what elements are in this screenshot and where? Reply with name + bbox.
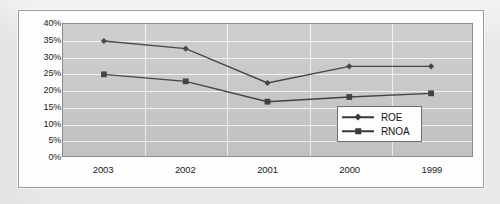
page-background: 40%35%30%25%20%15%10%5%0% 20032002200120…: [0, 0, 500, 204]
data-point-roe: [183, 46, 189, 52]
data-point-rnoa: [265, 99, 271, 105]
data-point-roe: [264, 80, 270, 86]
y-axis: 40%35%30%25%20%15%10%5%0%: [23, 23, 61, 157]
x-axis-tick-label: 1999: [422, 164, 443, 175]
line-chart: 40%35%30%25%20%15%10%5%0% 20032002200120…: [19, 11, 485, 189]
x-axis-tick-label: 2000: [339, 164, 360, 175]
data-point-rnoa: [183, 78, 189, 84]
y-axis-tick-label: 10%: [27, 119, 61, 128]
data-point-rnoa: [101, 71, 107, 77]
y-axis-tick-label: 30%: [27, 52, 61, 61]
legend-item-roe: ROE: [341, 110, 417, 124]
y-axis-tick-label: 0%: [27, 153, 61, 162]
legend-item-rnoa: RNOA: [341, 124, 417, 138]
x-axis: 20032002200120001999: [62, 161, 473, 179]
y-axis-tick-label: 15%: [27, 102, 61, 111]
chart-legend: ROE RNOA: [337, 106, 422, 142]
square-marker-icon: [341, 125, 375, 137]
series-line-rnoa: [104, 74, 431, 101]
y-axis-tick-label: 5%: [27, 136, 61, 145]
data-point-rnoa: [346, 94, 352, 100]
series-line-roe: [104, 41, 431, 83]
data-point-roe: [428, 63, 434, 69]
legend-label-rnoa: RNOA: [375, 126, 410, 137]
y-axis-tick-label: 35%: [27, 35, 61, 44]
x-axis-tick-label: 2003: [93, 164, 114, 175]
x-axis-tick-label: 2001: [257, 164, 278, 175]
data-point-rnoa: [428, 90, 434, 96]
y-axis-tick-label: 20%: [27, 86, 61, 95]
legend-label-roe: ROE: [375, 112, 402, 123]
x-axis-tick-label: 2002: [175, 164, 196, 175]
chart-card: 40%35%30%25%20%15%10%5%0% 20032002200120…: [18, 10, 484, 188]
diamond-marker-icon: [341, 111, 375, 123]
y-axis-tick-label: 40%: [27, 19, 61, 28]
data-point-roe: [346, 63, 352, 69]
y-axis-tick-label: 25%: [27, 69, 61, 78]
data-point-roe: [101, 38, 107, 44]
